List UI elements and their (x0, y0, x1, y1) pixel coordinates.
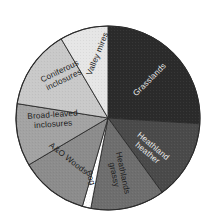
pie-chart-figure: GrasslandsHeathlandheatherHeathlandsgras… (0, 0, 213, 220)
pie-chart-svg: GrasslandsHeathlandheatherHeathlandsgras… (0, 0, 213, 220)
pie-slices (16, 26, 200, 210)
pie-slice (108, 26, 200, 124)
